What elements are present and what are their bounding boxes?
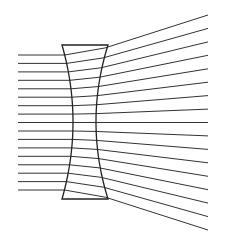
light-ray xyxy=(18,55,208,80)
light-ray xyxy=(18,109,208,114)
diverging-lens-diagram xyxy=(0,0,231,237)
light-ray xyxy=(18,173,208,203)
light-ray xyxy=(18,131,208,136)
light-ray xyxy=(18,165,208,190)
light-ray xyxy=(18,42,208,72)
light-rays xyxy=(18,15,208,230)
